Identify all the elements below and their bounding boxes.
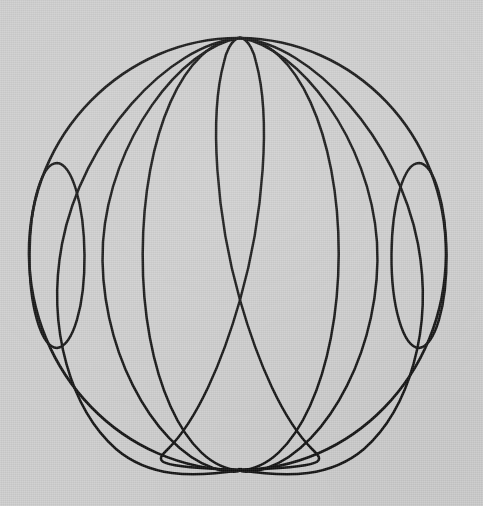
meridian-wide-path [143,38,339,470]
drawing-canvas [0,0,483,506]
meridian-mid-left-back-path [161,38,264,470]
wireframe-sphere-drawing [0,0,483,506]
limb-ellipse-left-path [29,163,84,348]
meridian-mid-right-back-path [216,38,319,470]
meridian-narrow-right-path [240,38,423,474]
sphere-outline-path [29,38,446,470]
